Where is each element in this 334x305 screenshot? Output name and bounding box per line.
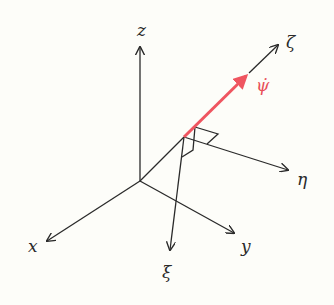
zeta-axis: [249, 45, 278, 73]
labels: z x y ζ η ξ ψ̇: [28, 20, 308, 282]
label-zeta: ζ: [286, 32, 297, 52]
x-axis: [47, 181, 140, 241]
label-z: z: [136, 20, 147, 40]
body-frame: [170, 45, 288, 250]
xi-axis: [170, 137, 184, 250]
connector-line: [140, 137, 184, 181]
label-psi-dot: ψ̇: [256, 75, 270, 95]
label-y: y: [240, 236, 251, 256]
label-xi: ξ: [162, 262, 173, 282]
eta-axis: [184, 137, 288, 170]
coordinate-frames-diagram: z x y ζ η ξ ψ̇: [0, 0, 334, 305]
label-x: x: [28, 236, 38, 256]
label-eta: η: [297, 169, 308, 189]
y-axis: [140, 181, 234, 233]
psi-dot-vector: [184, 76, 246, 137]
